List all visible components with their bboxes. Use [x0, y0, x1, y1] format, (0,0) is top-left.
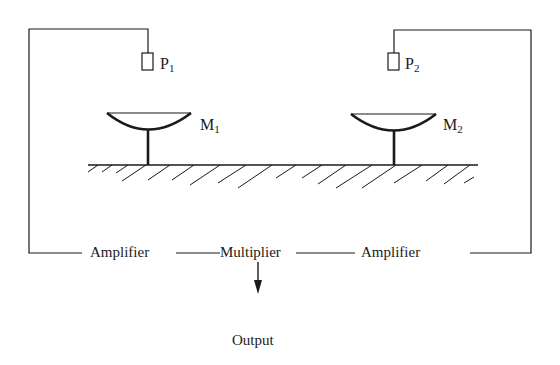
amplifier-left-label: Amplifier [90, 245, 149, 260]
ground-hatch [88, 165, 478, 188]
output-arrow-icon [254, 262, 262, 294]
mirror-m1-icon [107, 113, 191, 165]
diagram-canvas [0, 0, 560, 365]
mirror-m2-label: M2 [443, 117, 463, 135]
probe-p1-icon [142, 53, 153, 70]
probe-p2-icon [388, 53, 399, 70]
mirror-m1-label: M1 [200, 117, 220, 135]
probe-p2-label: P2 [405, 56, 419, 74]
wire-p1-left [29, 29, 148, 253]
mirror-m2-icon [351, 114, 436, 165]
amplifier-right-label: Amplifier [361, 245, 420, 260]
output-label: Output [232, 333, 274, 348]
probe-p1-label: P1 [160, 56, 174, 74]
multiplier-label: Multiplier [220, 245, 281, 260]
